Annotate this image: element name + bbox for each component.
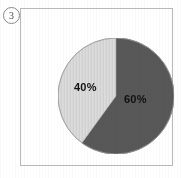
pie-chart	[58, 38, 174, 154]
figure-container: 3 40% 60%	[0, 0, 181, 178]
circled-number-icon: 3	[3, 7, 20, 24]
pie-svg	[58, 38, 174, 154]
pie-label-40: 40%	[74, 81, 97, 93]
pie-label-60: 60%	[124, 93, 147, 105]
figure-number-label: 3	[9, 11, 14, 21]
plot-frame: 40% 60%	[20, 8, 173, 166]
